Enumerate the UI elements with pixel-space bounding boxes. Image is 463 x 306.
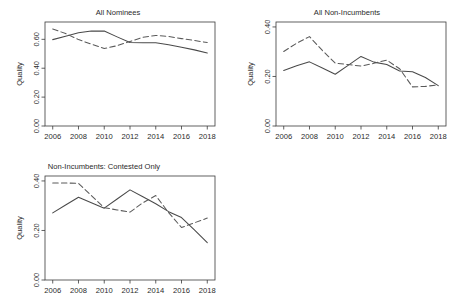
- x-tick-label: 2014: [378, 132, 395, 141]
- y-tick-label: 0.40: [32, 174, 41, 188]
- x-tick-label: 2016: [173, 286, 190, 295]
- chart-panel-all-non-incumbents: All Non-Incumbents0.000.200.40Quality200…: [231, 0, 463, 152]
- panel-title: All Nominees: [96, 8, 141, 17]
- x-tick-label: 2006: [44, 286, 61, 295]
- series-line-dashed: [53, 29, 208, 49]
- x-tick-label: 2012: [122, 286, 139, 295]
- x-tick-label: 2014: [147, 132, 164, 141]
- x-tick-label: 2008: [301, 132, 318, 141]
- x-tick-label: 2016: [173, 132, 190, 141]
- panel-title: Non-Incumbents: Contested Only: [48, 162, 160, 171]
- y-tick-label: 0.20: [263, 69, 272, 83]
- y-tick-label: 0.40: [263, 20, 272, 34]
- y-tick-label: 0.00: [32, 273, 41, 287]
- y-tick-label: 0.20: [32, 223, 41, 237]
- x-tick-label: 2018: [199, 286, 216, 295]
- x-tick-label: 2006: [44, 132, 61, 141]
- plot-frame: [45, 176, 215, 280]
- x-tick-label: 2014: [147, 286, 164, 295]
- x-tick-label: 2018: [430, 132, 447, 141]
- x-tick-label: 2016: [404, 132, 421, 141]
- x-axis: 2006200820102012201420162018: [275, 126, 446, 141]
- x-tick-label: 2010: [327, 132, 344, 141]
- y-axis-label: Quality: [246, 62, 255, 86]
- plot-all-non-incumbents: All Non-Incumbents0.000.200.40Quality200…: [231, 0, 463, 152]
- x-tick-label: 2010: [96, 286, 113, 295]
- plot-frame: [276, 22, 446, 126]
- x-tick-label: 2018: [199, 132, 216, 141]
- x-tick-label: 2012: [353, 132, 370, 141]
- x-tick-label: 2010: [96, 132, 113, 141]
- y-axis: 0.000.200.40: [32, 174, 46, 287]
- plot-non-incumbents-contested: Non-Incumbents: Contested Only0.000.200.…: [0, 154, 232, 306]
- y-axis-label: Quality: [15, 216, 24, 240]
- plot-all-nominees: All Nominees0.000.200.400.60Quality20062…: [0, 0, 232, 152]
- y-axis: 0.000.200.400.60: [32, 32, 46, 133]
- series-line-dashed: [284, 37, 439, 87]
- series-line-solid: [53, 190, 208, 243]
- y-axis-label: Quality: [15, 62, 24, 86]
- x-tick-label: 2008: [70, 286, 87, 295]
- y-tick-label: 0.00: [32, 119, 41, 133]
- x-tick-label: 2008: [70, 132, 87, 141]
- y-axis: 0.000.200.40: [263, 20, 277, 133]
- x-tick-label: 2012: [122, 132, 139, 141]
- y-tick-label: 0.60: [32, 32, 41, 46]
- chart-panel-non-incumbents-contested: Non-Incumbents: Contested Only0.000.200.…: [0, 154, 232, 306]
- series-line-solid: [53, 31, 208, 53]
- plot-frame: [45, 22, 215, 126]
- series-line-solid: [284, 56, 439, 85]
- panel-title: All Non-Incumbents: [314, 8, 380, 17]
- x-axis: 2006200820102012201420162018: [44, 126, 215, 141]
- y-tick-label: 0.20: [32, 90, 41, 104]
- x-axis: 2006200820102012201420162018: [44, 280, 215, 295]
- y-tick-label: 0.40: [32, 61, 41, 75]
- chart-panel-all-nominees: All Nominees0.000.200.400.60Quality20062…: [0, 0, 232, 152]
- x-tick-label: 2006: [275, 132, 292, 141]
- y-tick-label: 0.00: [263, 119, 272, 133]
